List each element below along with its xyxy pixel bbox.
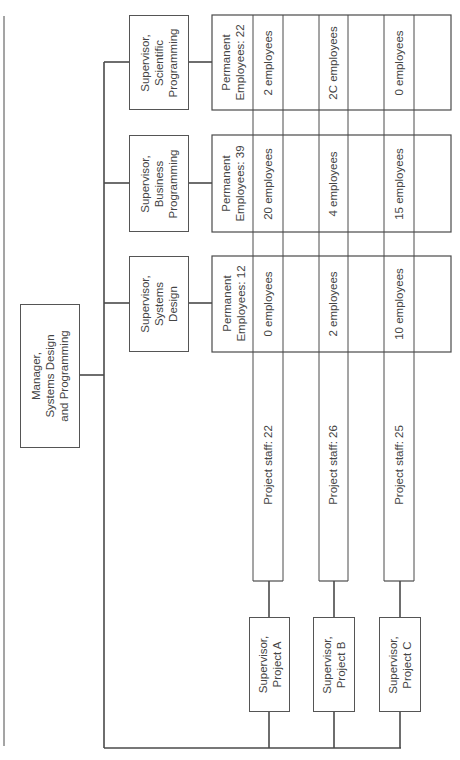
permanent-employees-business: Permanent Employees: 39 bbox=[212, 135, 253, 232]
allocation-scientific-project-a: 2 employees bbox=[253, 15, 283, 111]
allocation-business-project-b: 4 employees bbox=[318, 136, 348, 232]
supervisor-scientific-programming-label: Supervisor, Scientific Programming bbox=[129, 16, 189, 111]
allocation-business-project-c: 15 employees bbox=[384, 136, 414, 232]
allocation-systems-project-a: 0 employees bbox=[253, 256, 283, 352]
permanent-employees-scientific: Permanent Employees: 22 bbox=[212, 15, 253, 110]
allocation-business-project-a: 20 employees bbox=[253, 136, 283, 232]
allocation-scientific-project-b: 2C employees bbox=[318, 15, 348, 111]
project-staff-b: Project staff: 26 bbox=[318, 415, 348, 515]
supervisor-project-a-label: Supervisor, Project A bbox=[249, 617, 290, 712]
allocation-scientific-project-c: 0 employees bbox=[384, 15, 414, 111]
project-staff-c: Project staff: 25 bbox=[384, 415, 414, 515]
permanent-employees-systems: Permanent Employees: 12 bbox=[213, 256, 254, 352]
allocation-systems-project-c: 10 employees bbox=[384, 256, 414, 352]
supervisor-project-b-label: Supervisor, Project B bbox=[313, 618, 355, 713]
manager-label: Manager, Systems Design and Programming bbox=[20, 304, 80, 448]
project-staff-a: Project staff: 22 bbox=[253, 415, 283, 515]
supervisor-systems-design-label: Supervisor, Systems Design bbox=[129, 256, 189, 352]
org-chart: Manager, Systems Design and Programming … bbox=[0, 0, 460, 760]
allocation-systems-project-b: 2 employees bbox=[318, 256, 348, 352]
supervisor-business-programming-label: Supervisor, Business Programming bbox=[129, 136, 189, 233]
supervisor-project-c-label: Supervisor, Project C bbox=[379, 618, 421, 713]
